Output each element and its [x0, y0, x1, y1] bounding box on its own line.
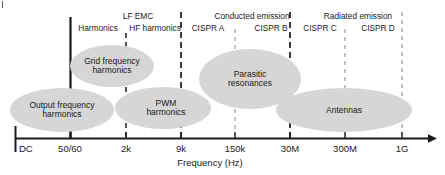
tick-label-9k: 9k [176, 144, 186, 154]
sub-label-cispr-c: CISPR C [303, 24, 337, 33]
tick-label-2k: 2k [121, 144, 131, 154]
region-label-antennas: Antennas [326, 106, 362, 115]
axis-title: Frequency (Hz) [177, 158, 242, 168]
axis-arrowhead-icon [428, 134, 437, 143]
region-label-line2: resonances [228, 79, 272, 88]
tick-label-50-60: 50/60 [58, 144, 82, 154]
sub-label-hf-harmonics: HF harmonics [129, 24, 181, 33]
tick-label-dc: DC [19, 144, 33, 154]
tick-label-1G: 1G [396, 144, 409, 154]
region-label-output-frequency-harmonics: Output frequency harmonics [29, 101, 94, 119]
region-label-line2: harmonics [84, 66, 140, 75]
region-label-parasitic-resonances: Parasitic resonances [228, 70, 272, 88]
tick-label-150k: 150k [225, 144, 246, 154]
band-label-radiated-emission: Radiated emission [324, 12, 392, 21]
region-label-line2: harmonics [29, 110, 94, 119]
region-label-pwm-harmonics: PWM harmonics [146, 99, 185, 117]
band-label-conducted-emission: Conducted emission [214, 12, 289, 21]
band-label-lf-emc: LF EMC [123, 12, 153, 21]
tick-label-30M: 30M [281, 144, 299, 154]
sub-label-cispr-d: CISPR D [361, 24, 395, 33]
sub-label-harmonics: Harmonics [78, 24, 118, 33]
region-label-line1: Antennas [326, 106, 362, 115]
region-label-grid-frequency-harmonics: Grid frequency harmonics [84, 57, 140, 75]
sub-label-cispr-a: CISPR A [192, 24, 225, 33]
emc-frequency-spectrum-diagram: LF EMC Conducted emission Radiated emiss… [0, 0, 445, 175]
tick-label-300M: 300M [333, 144, 357, 154]
sub-label-cispr-b: CISPR B [254, 24, 287, 33]
region-label-line2: harmonics [146, 108, 185, 117]
